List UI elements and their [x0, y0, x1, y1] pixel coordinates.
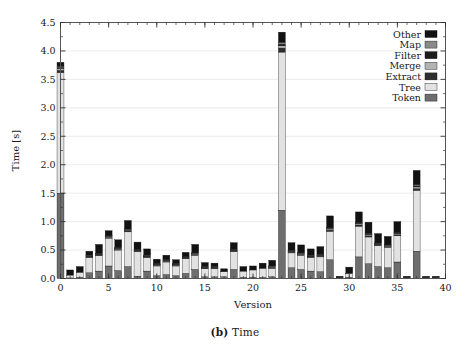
- bar-segment-token: [278, 210, 285, 278]
- legend-label-map: Map: [400, 39, 421, 50]
- bar-segment-tree: [365, 237, 372, 264]
- legend-swatch-tree: [425, 84, 437, 91]
- bar-segment-tree: [230, 252, 237, 270]
- figure-caption: (b) Time: [0, 326, 470, 338]
- bar-stack: [182, 252, 189, 278]
- bar-segment-other: [163, 255, 170, 260]
- bar-segment-token: [327, 260, 334, 279]
- bar-segment-tree: [134, 252, 141, 276]
- bar-segment-tree: [375, 246, 382, 267]
- legend-label-filter: Filter: [394, 50, 421, 61]
- x-axis-label: Version: [233, 299, 272, 310]
- legend-swatch-extract: [425, 73, 437, 80]
- bar-stack: [269, 260, 276, 278]
- bar-segment-tree: [173, 266, 180, 276]
- bar-segment-other: [384, 236, 391, 245]
- bar-segment-other: [115, 240, 122, 248]
- bar-stack: [173, 260, 180, 279]
- grid-lines: [61, 23, 446, 251]
- figure-container: 05101520253035400.00.51.01.52.02.53.03.5…: [0, 0, 470, 353]
- bar-segment-token: [355, 257, 362, 279]
- bar-segment-tree: [298, 255, 305, 269]
- bar-stack: [394, 222, 401, 279]
- bar-segment-other: [192, 244, 199, 253]
- bar-segment-tree: [211, 269, 218, 277]
- legend-swatch-token: [425, 94, 437, 101]
- bar-segment-tree: [124, 232, 131, 267]
- x-tick-label: 30: [343, 282, 355, 293]
- bar-stack: [375, 234, 382, 279]
- legend-swatch-filter: [425, 52, 437, 59]
- legend-label-extract: Extract: [386, 71, 422, 82]
- bar-segment-tree: [317, 257, 324, 272]
- bar-segment-tree: [144, 257, 151, 271]
- bar-segment-other: [269, 260, 276, 266]
- bar-stack: [230, 243, 237, 279]
- y-tick-label: 0.0: [40, 273, 55, 284]
- x-tick-label: 40: [439, 282, 451, 293]
- bar-segment-other: [327, 216, 334, 228]
- bar-segment-other: [230, 243, 237, 250]
- bar-segment-other: [288, 243, 295, 251]
- bar-segment-other: [86, 251, 93, 255]
- legend-swatch-other: [425, 31, 437, 38]
- bar-stack: [115, 240, 122, 279]
- bar-segment-merge: [413, 187, 420, 189]
- x-tick-label: 35: [391, 282, 403, 293]
- bar-segment-tree: [259, 268, 266, 277]
- legend: OtherMapFilterMergeExtractTreeToken: [386, 29, 437, 104]
- bar-segment-merge: [278, 46, 285, 48]
- bar-segment-other: [211, 263, 218, 266]
- bar-segment-tree: [96, 256, 103, 271]
- bar-segment-tree: [384, 247, 391, 267]
- legend-label-merge: Merge: [389, 60, 421, 71]
- bar-segment-tree: [327, 231, 334, 259]
- y-tick-label: 1.5: [40, 188, 55, 199]
- legend-swatch-merge: [425, 62, 437, 69]
- bar-stack: [192, 244, 199, 278]
- bar-segment-tree: [192, 255, 199, 269]
- bar-segment-other: [105, 231, 112, 236]
- bar-segment-other: [240, 267, 247, 272]
- y-tick-label: 2.0: [40, 159, 55, 170]
- bar-segment-other: [375, 234, 382, 244]
- x-tick-label: 5: [106, 282, 112, 293]
- bar-segment-other: [201, 263, 208, 267]
- bar-stack: [384, 236, 391, 278]
- y-tick-label: 3.0: [40, 102, 55, 113]
- bar-segment-other: [221, 269, 228, 272]
- bar-stack: [327, 216, 334, 279]
- bar-segment-tree: [115, 250, 122, 270]
- bar-stack: [298, 245, 305, 279]
- bar-segment-tree: [278, 52, 285, 210]
- bar-stack: [365, 222, 372, 278]
- y-tick-label: 0.5: [40, 244, 55, 255]
- bar-segment-tree: [307, 257, 314, 271]
- bar-stack: [134, 242, 141, 278]
- bar-stack: [96, 244, 103, 278]
- bar-stack: [288, 243, 295, 279]
- bar-stack: [413, 170, 420, 278]
- legend-label-tree: Tree: [399, 82, 421, 93]
- bar-segment-tree: [163, 262, 170, 275]
- figure-caption-text: Time: [232, 326, 259, 338]
- bar-segment-other: [317, 247, 324, 255]
- y-tick-label: 4.5: [40, 17, 55, 28]
- y-tick-label: 3.5: [40, 74, 55, 85]
- bar-stack: [105, 231, 112, 279]
- bar-stack: [124, 220, 131, 278]
- bar-segment-map: [278, 42, 285, 44]
- legend-swatch-map: [425, 41, 437, 48]
- bar-segment-tree: [413, 190, 420, 251]
- bar-stack: [355, 212, 362, 279]
- bar-segment-other: [307, 249, 314, 255]
- bar-segment-tree: [86, 257, 93, 272]
- bar-segment-tree: [288, 253, 295, 268]
- bar-segment-tree: [105, 238, 112, 266]
- bar-segment-other: [298, 245, 305, 253]
- bar-segment-other: [144, 249, 151, 255]
- bar-segment-other: [278, 32, 285, 42]
- bar-stack: [86, 251, 93, 278]
- bar-segment-other: [394, 222, 401, 233]
- bar-stack: [317, 247, 324, 279]
